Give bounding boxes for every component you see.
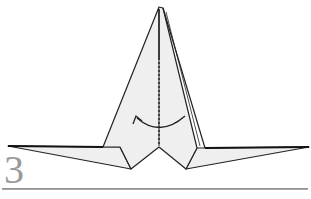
step-number: 3	[4, 150, 24, 190]
main-body	[103, 7, 205, 169]
right-wing	[186, 147, 309, 169]
origami-diagram	[0, 0, 311, 199]
left-wing	[8, 146, 131, 169]
divider-rule	[2, 188, 308, 190]
